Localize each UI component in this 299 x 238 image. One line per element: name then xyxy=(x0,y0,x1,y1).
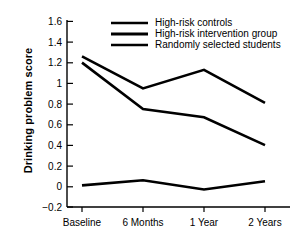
x-tick-label-baseline: Baseline xyxy=(52,218,112,228)
y-tick-label-10: −0.2 xyxy=(26,203,62,213)
legend-swatches xyxy=(111,23,148,45)
series-line-high-risk-controls xyxy=(82,56,265,102)
y-tick-label-9: 0 xyxy=(26,182,62,192)
series-line-high-risk-intervention-group xyxy=(82,63,265,145)
chart-figure: Drinking problem score xyxy=(0,0,299,238)
y-tick-label-1: 1.6 xyxy=(26,17,62,27)
x-tick-label-6-months: 6 Months xyxy=(113,218,173,228)
y-tick-label-5: 0.8 xyxy=(26,100,62,110)
y-tick-label-7: 0.4 xyxy=(26,141,62,151)
y-tick-label-3: 1.2 xyxy=(26,58,62,68)
legend-label-high-risk-controls: High-risk controls xyxy=(155,18,232,28)
series-line-randomly-selected-students xyxy=(82,180,265,189)
legend-label-high-risk-intervention-group: High-risk intervention group xyxy=(155,29,277,39)
y-tick-marks xyxy=(67,21,73,207)
x-tick-marks xyxy=(82,207,265,212)
legend-label-randomly-selected-students: Randomly selected students xyxy=(155,40,281,50)
y-tick-label-8: 0.2 xyxy=(26,162,62,172)
x-tick-label-2-years: 2 Years xyxy=(235,218,295,228)
y-tick-label-4: 1 xyxy=(26,79,62,89)
y-tick-label-6: 0.6 xyxy=(26,120,62,130)
x-tick-label-1-year: 1 Year xyxy=(174,218,234,228)
y-tick-label-2: 1.4 xyxy=(26,38,62,48)
